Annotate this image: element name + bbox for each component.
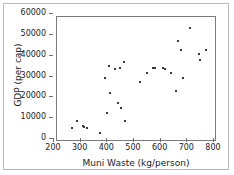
y-axis-tick-label: 40000	[4, 51, 46, 59]
data-point	[120, 107, 122, 109]
y-axis-tick	[49, 96, 53, 97]
x-axis-label: Muni Waste (kg/person)	[56, 158, 216, 168]
y-axis-tick-label: 20000	[4, 92, 46, 100]
y-axis-label: GDP (per cap)	[13, 25, 23, 125]
y-axis-tick-label: 30000	[4, 72, 46, 80]
y-axis-tick	[49, 34, 53, 35]
data-point	[99, 132, 101, 134]
data-point	[146, 72, 148, 74]
x-axis-tick-label: 500	[118, 144, 148, 152]
data-point	[114, 68, 116, 70]
data-point	[123, 61, 125, 63]
scatter-plot-screenshot: 0100002000030000400005000060000 20030040…	[0, 0, 234, 175]
data-point	[170, 72, 172, 74]
plot-area	[57, 17, 215, 140]
data-point	[119, 67, 121, 69]
x-axis-tick	[213, 138, 214, 142]
y-axis-tick-label: 10000	[4, 113, 46, 121]
data-point	[124, 120, 126, 122]
x-axis-tick	[133, 138, 134, 142]
data-point	[189, 27, 191, 29]
x-axis-tick-label: 600	[145, 144, 175, 152]
data-point	[106, 112, 108, 114]
x-axis-tick	[80, 138, 81, 142]
data-point	[198, 53, 200, 55]
data-point	[117, 102, 119, 104]
data-point	[164, 68, 166, 70]
x-axis-tick	[160, 138, 161, 142]
data-point	[199, 59, 201, 61]
y-axis-tick-label: 60000	[4, 9, 46, 17]
y-axis-tick-label: 50000	[4, 30, 46, 38]
data-point	[71, 127, 73, 129]
data-point	[83, 126, 85, 128]
x-axis-tick-label: 700	[171, 144, 201, 152]
x-axis-tick-label: 400	[91, 144, 121, 152]
y-axis-tick	[49, 76, 53, 77]
data-point	[76, 120, 78, 122]
data-point	[180, 49, 182, 51]
x-axis-tick-label: 800	[198, 144, 228, 152]
x-axis-tick	[186, 138, 187, 142]
data-point	[175, 90, 177, 92]
x-axis-tick	[53, 138, 54, 142]
data-point	[177, 40, 179, 42]
data-point	[86, 127, 88, 129]
figure-frame: 0100002000030000400005000060000 20030040…	[3, 3, 229, 170]
x-axis-tick-label: 300	[65, 144, 95, 152]
data-point	[109, 92, 111, 94]
data-point	[154, 67, 156, 69]
y-axis-tick	[49, 55, 53, 56]
y-axis-tick	[49, 13, 53, 14]
y-axis-tick-label: 0	[4, 134, 46, 142]
x-axis-tick	[106, 138, 107, 142]
data-point	[205, 49, 207, 51]
data-point	[182, 77, 184, 79]
data-point	[108, 65, 110, 67]
y-axis-tick	[49, 117, 53, 118]
data-point	[104, 77, 106, 79]
x-axis-tick-label: 200	[38, 144, 68, 152]
plot-box	[56, 16, 216, 141]
data-point	[139, 81, 141, 83]
